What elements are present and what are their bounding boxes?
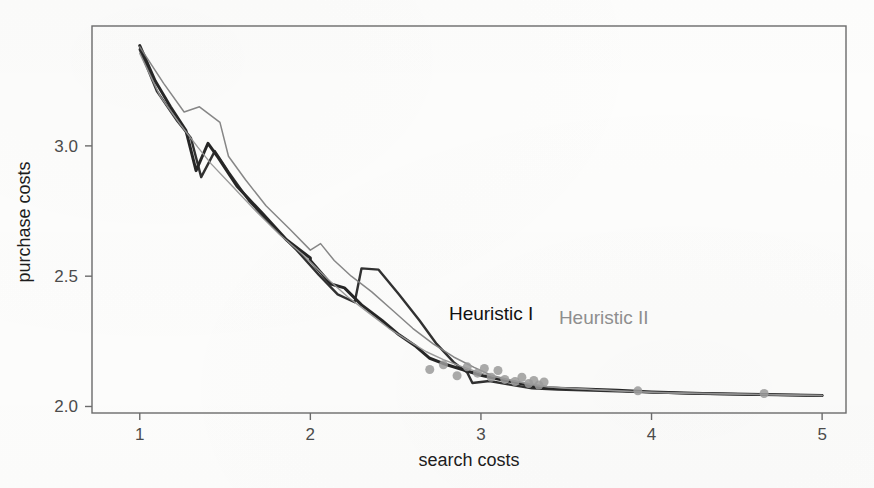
data-marker: [500, 375, 509, 384]
data-marker: [463, 362, 472, 371]
data-marker: [480, 364, 489, 373]
x-tick-label: 5: [817, 425, 826, 444]
data-marker: [425, 365, 434, 374]
y-tick-label: 3.0: [54, 137, 78, 156]
data-marker: [760, 389, 769, 398]
data-marker: [494, 366, 503, 375]
y-axis-ticks: 2.02.53.0: [54, 137, 92, 417]
chart-figure: 12345 2.02.53.0 Heuristic IHeuristic II …: [0, 0, 874, 488]
data-marker: [453, 371, 462, 380]
series-line-4: [140, 53, 822, 395]
y-tick-label: 2.0: [54, 397, 78, 416]
data-marker: [439, 360, 448, 369]
y-axis-title: purchase costs: [14, 161, 34, 282]
data-series-group: [140, 46, 822, 396]
y-tick-label: 2.5: [54, 267, 78, 286]
legend-label-2: Heuristic II: [559, 307, 649, 328]
data-marker: [633, 386, 642, 395]
data-marker: [517, 373, 526, 382]
x-tick-label: 2: [306, 425, 315, 444]
plot-frame: [92, 26, 846, 413]
scatter-line-chart: 12345 2.02.53.0 Heuristic IHeuristic II …: [0, 0, 874, 488]
x-axis-ticks: 12345: [135, 413, 827, 444]
data-marker: [540, 377, 549, 386]
x-axis-title: search costs: [418, 450, 519, 470]
plot-border: [92, 26, 846, 413]
x-tick-label: 1: [135, 425, 144, 444]
x-tick-label: 4: [647, 425, 656, 444]
series-line-1: [140, 46, 822, 396]
x-tick-label: 3: [476, 425, 485, 444]
series-line-2: [140, 49, 822, 395]
series-annotations: Heuristic IHeuristic II: [449, 303, 649, 328]
data-marker: [487, 373, 496, 382]
series-line-3: [140, 47, 822, 396]
legend-label-1: Heuristic I: [449, 303, 533, 324]
